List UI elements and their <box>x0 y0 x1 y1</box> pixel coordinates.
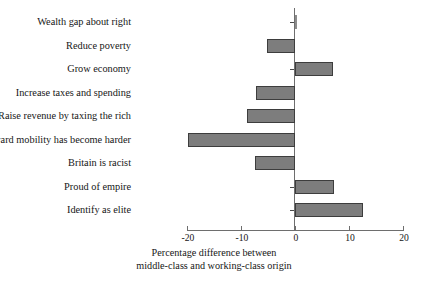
xtick-mark-zero <box>295 226 296 231</box>
xtick-mark-20 <box>403 226 404 231</box>
category-label-identify-as-elite: Identify as elite <box>67 204 131 215</box>
bar-raise-revenue-by-taxing-the-rich <box>247 109 295 123</box>
xtick-mark-minus10 <box>241 226 242 231</box>
xtick-label-zero: 0 <box>276 232 316 243</box>
bar-increase-taxes-and-spending <box>256 86 295 100</box>
category-label-proud-of-empire: Proud of empire <box>64 181 131 192</box>
xtick-label-minus20: -20 <box>168 232 208 243</box>
xtick-mark-minus20 <box>187 226 188 231</box>
x-axis-title-line-1: Percentage difference between <box>0 247 428 260</box>
x-axis-title: Percentage difference between middle-cla… <box>0 247 428 272</box>
category-label-wealth-gap-about-right: Wealth gap about right <box>37 16 131 27</box>
x-axis-title-line-2: middle-class and working-class origin <box>0 260 428 273</box>
category-label-raise-revenue-by-taxing-the-rich: Raise revenue by taxing the rich <box>0 110 131 121</box>
category-label-grow-economy: Grow economy <box>67 63 131 74</box>
category-label-upward-mobility-has-become-harder: Upward mobility has become harder <box>0 134 131 145</box>
xtick-label-20: 20 <box>384 232 424 243</box>
bar-identify-as-elite <box>295 203 363 217</box>
xtick-mark-10 <box>349 226 350 231</box>
xtick-label-minus10: -10 <box>222 232 262 243</box>
bar-upward-mobility-has-become-harder <box>188 133 295 147</box>
xtick-label-10: 10 <box>330 232 370 243</box>
bar-wealth-gap-about-right <box>295 15 297 29</box>
category-label-increase-taxes-and-spending: Increase taxes and spending <box>16 87 131 98</box>
bar-proud-of-empire <box>295 180 334 194</box>
category-label-reduce-poverty: Reduce poverty <box>66 40 131 51</box>
category-label-britain-is-racist: Britain is racist <box>68 157 131 168</box>
bar-britain-is-racist <box>255 156 296 170</box>
bar-chart: Wealth gap about right Reduce poverty Gr… <box>0 0 428 282</box>
bar-reduce-poverty <box>267 39 295 53</box>
bar-grow-economy <box>295 62 333 76</box>
